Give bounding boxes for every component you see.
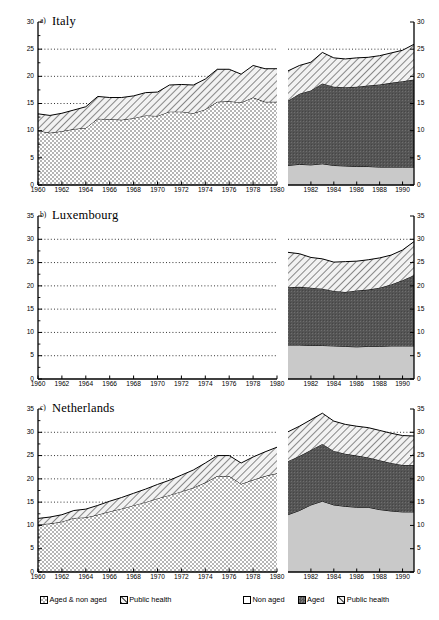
- legend-label: Aged & non aged: [50, 596, 107, 603]
- legend-group-left: Aged & non aged Public health: [40, 596, 171, 604]
- y-tick-label: 35: [417, 406, 437, 413]
- y-tick-label: 10: [417, 127, 437, 134]
- x-tick-label: 1964: [75, 381, 97, 388]
- y-tick-label: 35: [14, 213, 34, 220]
- y-tick-label: 5: [417, 155, 437, 162]
- y-tick-label: 15: [14, 100, 34, 107]
- subplot-right-luxembourg: [288, 242, 414, 379]
- x-tick-label: 1986: [346, 381, 368, 388]
- x-tick-label: 1966: [99, 574, 121, 581]
- legend-swatch-dark: [298, 596, 306, 604]
- x-tick-label: 1970: [147, 574, 169, 581]
- y-tick-label: 35: [417, 213, 437, 220]
- legend-item: Public health: [120, 596, 172, 604]
- x-tick-label: 1972: [170, 574, 192, 581]
- x-tick-label: 1980: [266, 574, 288, 581]
- x-tick-label: 1974: [194, 187, 216, 194]
- y-tick-label: 0: [417, 376, 437, 383]
- y-tick-label: 20: [14, 73, 34, 80]
- y-tick-label: 20: [14, 283, 34, 290]
- x-tick-label: 1960: [27, 187, 49, 194]
- x-tick-label: 1972: [170, 381, 192, 388]
- legend: Aged & non aged Public health Non aged A…: [0, 594, 439, 614]
- y-tick-label: 5: [417, 352, 437, 359]
- x-tick-label: 1968: [123, 574, 145, 581]
- legend-group-right: Non aged Aged Public health: [243, 596, 389, 604]
- y-tick-label: 15: [417, 499, 437, 506]
- y-tick-label: 10: [417, 522, 437, 529]
- y-tick-label: 5: [417, 545, 437, 552]
- x-tick-label: 1986: [346, 574, 368, 581]
- panel-letter-italy: a): [40, 16, 46, 25]
- y-tick-label: 25: [417, 259, 437, 266]
- legend-label: Public health: [347, 596, 389, 603]
- x-tick-label: 1978: [242, 381, 264, 388]
- x-tick-label: 1976: [218, 187, 240, 194]
- x-tick-label: 1976: [218, 381, 240, 388]
- x-tick-label: 1990: [392, 381, 414, 388]
- x-tick-label: 1984: [323, 381, 345, 388]
- x-tick-label: 1960: [27, 574, 49, 581]
- x-tick-label: 1974: [194, 381, 216, 388]
- y-tick-label: 20: [417, 476, 437, 483]
- x-tick-label: 1964: [75, 187, 97, 194]
- y-tick-label: 0: [417, 569, 437, 576]
- x-tick-label: 1984: [323, 574, 345, 581]
- panel-letter-netherlands: c): [40, 403, 46, 412]
- x-tick-label: 1980: [266, 187, 288, 194]
- y-tick-label: 10: [14, 127, 34, 134]
- legend-item: Aged: [298, 596, 325, 604]
- x-tick-label: 1960: [27, 381, 49, 388]
- x-tick-label: 1972: [170, 187, 192, 194]
- x-tick-label: 1962: [51, 381, 73, 388]
- y-tick-label: 30: [14, 429, 34, 436]
- x-tick-label: 1986: [346, 187, 368, 194]
- x-tick-label: 1970: [147, 187, 169, 194]
- legend-item: Public health: [337, 596, 389, 604]
- legend-item: Aged & non aged: [40, 596, 107, 604]
- y-tick-label: 25: [14, 259, 34, 266]
- y-tick-label: 5: [14, 352, 34, 359]
- y-tick-label: 10: [14, 329, 34, 336]
- y-tick-label: 5: [14, 545, 34, 552]
- x-tick-label: 1968: [123, 381, 145, 388]
- subplot-left-italy: [38, 65, 277, 185]
- y-tick-label: 20: [14, 476, 34, 483]
- legend-swatch-hatch: [120, 596, 128, 604]
- panel-title-luxembourg: Luxembourg: [52, 208, 118, 223]
- x-tick-label: 1988: [369, 574, 391, 581]
- y-tick-label: 30: [14, 19, 34, 26]
- x-tick-label: 1966: [99, 381, 121, 388]
- subplot-left-netherlands: [38, 447, 277, 572]
- x-tick-label: 1984: [323, 187, 345, 194]
- panel-plot-italy: [0, 22, 439, 188]
- y-tick-label: 30: [417, 19, 437, 26]
- legend-label: Non aged: [253, 596, 285, 603]
- y-tick-label: 30: [417, 429, 437, 436]
- y-tick-label: 25: [14, 46, 34, 53]
- x-tick-label: 1982: [300, 381, 322, 388]
- y-tick-label: 15: [14, 499, 34, 506]
- x-tick-label: 1974: [194, 574, 216, 581]
- x-tick-label: 1988: [369, 187, 391, 194]
- subplot-right-netherlands: [288, 413, 414, 572]
- panel-title-italy: Italy: [52, 14, 76, 29]
- x-tick-label: 1978: [242, 574, 264, 581]
- panel-plot-luxembourg: [0, 216, 439, 382]
- x-tick-label: 1970: [147, 381, 169, 388]
- x-tick-label: 1990: [392, 574, 414, 581]
- x-tick-label: 1990: [392, 187, 414, 194]
- x-tick-label: 1982: [300, 187, 322, 194]
- y-tick-label: 15: [417, 100, 437, 107]
- y-tick-label: 35: [14, 406, 34, 413]
- x-tick-label: 1980: [266, 381, 288, 388]
- x-tick-label: 1982: [300, 574, 322, 581]
- y-tick-label: 15: [14, 306, 34, 313]
- x-tick-label: 1978: [242, 187, 264, 194]
- y-tick-label: 20: [417, 283, 437, 290]
- y-tick-label: 25: [14, 452, 34, 459]
- legend-swatch-hatch: [337, 596, 345, 604]
- y-tick-label: 10: [14, 522, 34, 529]
- y-tick-label: 5: [14, 155, 34, 162]
- legend-item: Non aged: [243, 596, 285, 604]
